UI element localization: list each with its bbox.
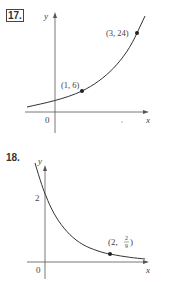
graph-17: 17. y x 0 (1, 6) (3, 24) xyxy=(0,0,175,140)
point-label-3-24: (3, 24) xyxy=(106,28,129,38)
point-2-2-9 xyxy=(108,252,112,256)
fraction-denominator: 9 xyxy=(125,243,128,249)
point-3-24 xyxy=(135,31,139,35)
point-1-6 xyxy=(80,89,84,93)
x-axis-arrow-icon xyxy=(143,260,149,264)
fraction-numerator: 2 xyxy=(125,235,128,241)
graph-18: 18. y x 0 2 (2, 2 9 ) xyxy=(0,140,175,281)
origin-label: 0 xyxy=(45,115,50,125)
x-axis-arrow-icon xyxy=(143,110,149,114)
x-axis-label: x xyxy=(145,115,150,125)
graph-17-plot: y x 0 (1, 6) (3, 24) xyxy=(0,0,175,140)
y-axis-arrow-icon xyxy=(43,165,47,171)
y-axis-arrow-icon xyxy=(53,12,57,18)
decay-curve xyxy=(35,163,145,259)
point-label-close: ) xyxy=(130,237,133,247)
point-label-1-6: (1, 6) xyxy=(61,80,80,90)
x-axis-label: x xyxy=(145,265,150,275)
origin-label: 0 xyxy=(36,265,41,275)
y-axis-label: y xyxy=(37,156,42,166)
graph-18-plot: y x 0 2 (2, 2 9 ) xyxy=(0,140,175,281)
y-axis-label: y xyxy=(43,11,48,21)
y-intercept-label: 2 xyxy=(35,193,40,203)
point-label-open: (2, xyxy=(108,237,118,247)
